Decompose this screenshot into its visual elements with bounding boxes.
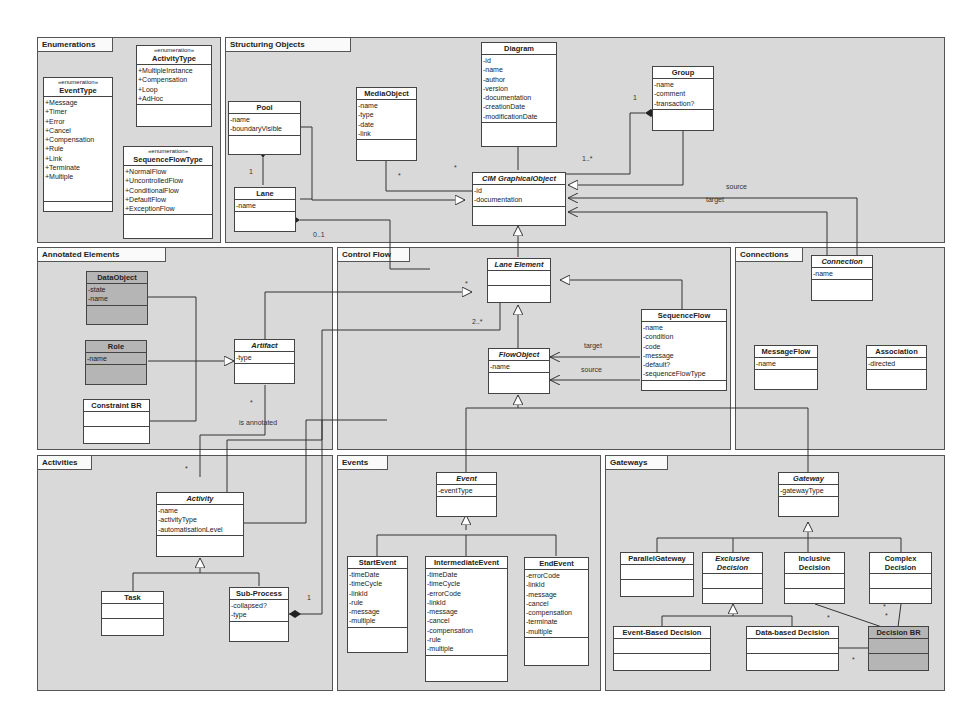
class-attributes: -directed [867, 358, 926, 370]
attribute: -date [358, 120, 415, 129]
class-connection[interactable]: Connection -name [811, 255, 873, 301]
attribute: -name [654, 80, 712, 89]
class-attributes: -id -documentation [473, 185, 565, 207]
class-attributes: -name [235, 200, 295, 212]
attribute: -sequenceFlowType [643, 369, 725, 378]
attribute: -name [158, 506, 242, 515]
class-parallel-gateway[interactable]: ParallelGateway [620, 552, 694, 597]
attribute: -compensation [427, 626, 506, 635]
class-sub-process[interactable]: Sub-Process -collapsed? -type [229, 587, 289, 642]
class-lane-element[interactable]: Lane Element [487, 258, 551, 303]
class-gateway[interactable]: Gateway -gatewayType [778, 472, 839, 517]
class-attributes: -type [235, 352, 294, 364]
multiplicity-label: 2..* [472, 318, 483, 325]
class-group[interactable]: Group -name -comment -transaction? [652, 66, 714, 131]
class-name: Role [86, 341, 146, 353]
class-name: Complex Decision [870, 553, 931, 574]
stereotype-label: «enumeration» [139, 47, 209, 54]
class-artifact[interactable]: Artifact -type [234, 339, 295, 384]
class-decision-br[interactable]: Decision BR [868, 626, 929, 671]
class-name: Task [102, 592, 163, 604]
attribute: -name [88, 294, 146, 303]
class-data-based-decision[interactable]: Data-based Decision [746, 626, 839, 671]
multiplicity-label: 0..1 [313, 231, 325, 238]
multiplicity-label: * [398, 172, 401, 179]
attribute: -message [427, 607, 506, 616]
class-event-type[interactable]: «enumeration»EventType +Message +Timer +… [43, 77, 113, 212]
class-attributes: -id -name -author -version -documentatio… [482, 55, 556, 123]
class-attributes: -eventType [437, 485, 496, 497]
class-complex-decision[interactable]: Complex Decision [869, 552, 932, 604]
class-operations [755, 370, 817, 380]
class-operations [525, 638, 588, 648]
attribute: -code [643, 342, 725, 351]
attribute: -compensation [526, 608, 587, 617]
class-operations [124, 215, 212, 225]
class-name: Association [867, 346, 926, 358]
class-event-based-decision[interactable]: Event-Based Decision [613, 626, 711, 671]
class-operations [102, 619, 163, 629]
package-title: Connections [736, 248, 803, 262]
class-attributes [869, 639, 928, 654]
class-pool[interactable]: Pool -name -boundaryVisible [228, 101, 301, 155]
attribute: -state [88, 285, 146, 294]
class-name: SequenceFlowType [133, 155, 202, 164]
class-data-object[interactable]: DataObject -state -name [86, 271, 148, 325]
attribute: +Loop [138, 85, 210, 94]
attribute: -rule [427, 635, 506, 644]
class-task[interactable]: Task [101, 591, 164, 636]
class-sequence-flow-type[interactable]: «enumeration»SequenceFlowType +NormalFlo… [123, 146, 213, 239]
class-flow-object[interactable]: FlowObject -name [488, 348, 550, 394]
attribute: +Compensation [45, 135, 111, 144]
class-exclusive-decision[interactable]: Exclusive Decision [702, 552, 763, 604]
class-activity-type[interactable]: «enumeration»ActivityType +MultipleInsta… [136, 45, 212, 127]
class-diagram[interactable]: Diagram -id -name -author -version -docu… [481, 42, 557, 147]
role-label-target: target [584, 342, 602, 349]
association-label: is annotated [239, 419, 277, 426]
class-event[interactable]: Event -eventType [436, 472, 497, 517]
attribute: -link [358, 129, 415, 138]
class-operations [84, 427, 149, 437]
attribute: +Timer [45, 107, 111, 116]
attribute: -transaction? [654, 99, 712, 108]
class-message-flow[interactable]: MessageFlow -name [754, 345, 818, 390]
multiplicity-label: * [885, 612, 888, 619]
attribute: -gatewayType [780, 486, 837, 495]
class-name: SequenceFlow [642, 310, 726, 322]
attribute: -multiple [526, 627, 587, 636]
package-title: Structuring Objects [226, 38, 351, 52]
class-activity[interactable]: Activity -name -activityType -automatisa… [156, 492, 244, 557]
class-sequence-flow[interactable]: SequenceFlow -name -condition -code -mes… [641, 309, 727, 391]
class-operations [621, 580, 693, 590]
class-operations [157, 536, 243, 546]
class-media-object[interactable]: MediaObject -name -type -date -link [356, 87, 417, 161]
class-name: Group [653, 67, 713, 79]
attribute: -collapsed? [231, 601, 287, 610]
attribute: -default? [643, 360, 725, 369]
class-intermediate-event[interactable]: IntermediateEvent -timeDate -timeCycle -… [425, 556, 508, 682]
attribute: +ConditionalFlow [125, 186, 211, 195]
class-operations [614, 654, 710, 664]
class-operations [137, 105, 211, 115]
class-cim-graphical-object[interactable]: CIM GraphicalObject -id -documentation [472, 172, 566, 226]
attribute: -type [358, 110, 415, 119]
class-end-event[interactable]: EndEvent -errorCode -linkId -message -ca… [524, 557, 589, 666]
attribute: -boundaryVisible [230, 124, 299, 133]
class-operations [473, 207, 565, 217]
class-lane[interactable]: Lane -name [234, 187, 296, 232]
attribute: -name [483, 65, 555, 74]
class-constraint-br[interactable]: Constraint BR [83, 399, 150, 444]
class-association[interactable]: Association -directed [866, 345, 927, 390]
multiplicity-label: * [827, 614, 830, 621]
attribute: +Compensation [138, 75, 210, 84]
attribute: +MultipleInstance [138, 66, 210, 75]
attribute: +Cancel [45, 126, 111, 135]
multiplicity-label: * [185, 465, 188, 472]
class-role[interactable]: Role -name [85, 340, 147, 385]
class-operations [235, 364, 294, 374]
class-attributes: -name -comment -transaction? [653, 79, 713, 110]
class-start-event[interactable]: StartEvent -timeDate -timeCycle -linkId … [347, 556, 408, 653]
attribute: -message [643, 351, 725, 360]
class-inclusive-decision[interactable]: Inclusive Decision [784, 552, 845, 604]
attribute: -documentation [483, 93, 555, 102]
